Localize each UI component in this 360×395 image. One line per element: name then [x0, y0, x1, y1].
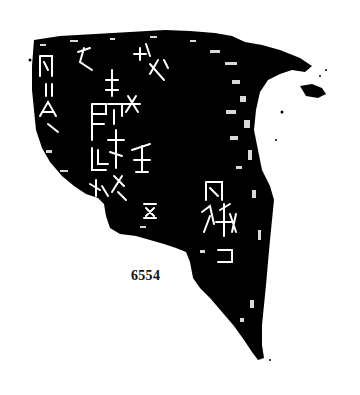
- fragment-silhouette: [32, 30, 312, 360]
- rubbing-plate: 6554: [0, 0, 360, 395]
- oracle-bone-fragment: [0, 0, 360, 395]
- fragment-right-chip: [300, 84, 326, 98]
- catalog-number-label: 6554: [131, 268, 160, 284]
